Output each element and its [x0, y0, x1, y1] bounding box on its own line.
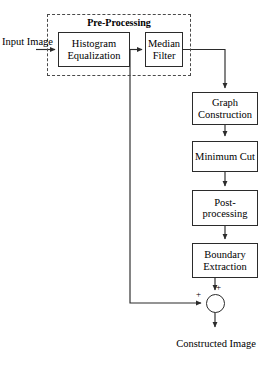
summing-junction-plus-left: +: [196, 290, 201, 299]
constructed-image-label-line1: Constructed: [176, 338, 227, 349]
summing-junction: [206, 294, 225, 313]
input-image-label-line1: Input: [2, 36, 24, 47]
node-boundary-extraction-line2: Extraction: [202, 261, 248, 272]
node-post-processing-line1: Post-: [202, 197, 249, 208]
flowchart-canvas: Pre-Processing Input Image Histogram Equ…: [0, 0, 269, 371]
node-median-filter-line2: Filter: [147, 50, 181, 61]
node-minimum-cut-line1: Minimum Cut: [194, 151, 256, 162]
input-image-label: Input Image: [2, 36, 38, 48]
summing-junction-plus-top: +: [216, 283, 221, 292]
input-image-label-line2: Image: [27, 36, 53, 47]
constructed-image-label-line2: Image: [230, 338, 256, 349]
node-graph-construction[interactable]: Graph Construction: [192, 92, 258, 125]
edge-bypass-to-sum: [130, 50, 201, 304]
node-graph-construction-line1: Graph: [197, 97, 253, 108]
node-histogram-equalization[interactable]: Histogram Equalization: [58, 32, 130, 67]
node-boundary-extraction-line1: Boundary: [202, 249, 248, 260]
node-post-processing-line2: processing: [202, 208, 249, 219]
node-histogram-equalization-line2: Equalization: [66, 50, 121, 61]
node-median-filter[interactable]: Median Filter: [145, 32, 183, 67]
node-median-filter-line1: Median: [147, 38, 181, 49]
group-pre-processing-title: Pre-Processing: [47, 17, 191, 28]
node-histogram-equalization-line1: Histogram: [66, 38, 121, 49]
node-graph-construction-line2: Construction: [197, 109, 253, 120]
node-minimum-cut[interactable]: Minimum Cut: [192, 141, 258, 172]
node-boundary-extraction[interactable]: Boundary Extraction: [192, 243, 258, 278]
constructed-image-label: Constructed Image: [176, 338, 256, 350]
node-post-processing[interactable]: Post- processing: [192, 190, 258, 226]
